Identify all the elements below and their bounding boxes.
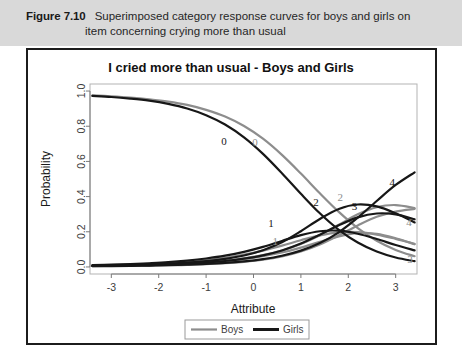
y-tick-label: 0.4 [75, 189, 87, 204]
caption-text-line-2: item concerning crying more than usual [85, 24, 426, 39]
chart-legend: BoysGirls [185, 320, 309, 339]
x-tick-label: 2 [345, 281, 351, 293]
x-tick-label: -2 [154, 281, 163, 293]
figure-number: Figure 7.10 [26, 10, 86, 22]
legend-label-boys: Boys [221, 324, 243, 335]
curve-label-boys-2: 2 [337, 191, 343, 203]
caption-line-1: Figure 7.10 Superimposed category respon… [26, 9, 426, 23]
caption-band: Figure 7.10 Superimposed category respon… [0, 0, 462, 46]
y-axis: 0.00.20.40.60.81.0 [75, 84, 90, 275]
caption-text-line-1: Superimposed category response curves fo… [95, 9, 411, 23]
y-tick-label: 0.0 [75, 260, 87, 275]
curve-label-girls-4: 4 [390, 176, 396, 188]
curve-label-girls-2: 2 [313, 196, 319, 208]
chart-title: I cried more than usual - Boys and Girls [108, 60, 354, 75]
curve-label-girls-1: 1 [268, 217, 274, 229]
y-tick-label: 1.0 [75, 84, 87, 99]
y-tick-label: 0.2 [75, 224, 87, 239]
x-tick-label: -3 [107, 281, 116, 293]
plot-frame [90, 84, 417, 274]
curve-label-boys-1: 1 [273, 235, 279, 247]
curve-label-boys-3: 3 [407, 253, 413, 265]
x-tick-label: 1 [298, 281, 304, 293]
caption-block: Figure 7.10 Superimposed category respon… [26, 9, 426, 39]
x-axis: -3-2-10123 [107, 274, 399, 293]
y-tick-label: 0.8 [75, 119, 87, 134]
curve-label-boys-0: 0 [252, 136, 258, 148]
figure-box: I cried more than usual - Boys and Girls… [26, 48, 437, 345]
x-tick-label: 3 [393, 281, 399, 293]
x-tick-label: -1 [201, 281, 210, 293]
y-axis-title: Probability [39, 151, 53, 207]
figure-page: Figure 7.10 Superimposed category respon… [0, 0, 462, 358]
curve-label-boys-4: 4 [406, 216, 412, 228]
x-axis-title: Attribute [231, 302, 276, 316]
y-tick-label: 0.6 [75, 154, 87, 169]
legend-label-girls: Girls [283, 324, 304, 335]
curve-series-group [92, 95, 414, 266]
curve-label-girls-0: 0 [221, 135, 227, 147]
x-tick-label: 0 [251, 281, 257, 293]
chart-area: I cried more than usual - Boys and Girls… [28, 50, 435, 343]
category-response-curves-chart: I cried more than usual - Boys and Girls… [28, 50, 435, 343]
curve-label-girls-3: 3 [352, 200, 358, 212]
